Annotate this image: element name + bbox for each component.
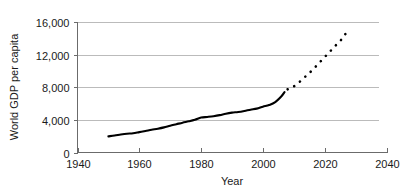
historical-data-line	[108, 92, 284, 136]
chart-container: 194019601980200020202040 04,0008,00012,0…	[0, 0, 406, 195]
y-tick-label: 0	[63, 148, 69, 160]
x-tick-label: 1980	[189, 158, 213, 170]
gridlines	[78, 23, 379, 121]
x-tick-label: 1960	[127, 158, 151, 170]
x-tick-label: 2000	[251, 158, 275, 170]
x-axis-ticks: 194019601980200020202040	[66, 148, 399, 170]
x-tick-label: 2020	[313, 158, 337, 170]
y-axis-title: World GDP per capita	[8, 33, 20, 140]
y-tick-label: 12,000	[36, 50, 70, 62]
projection-data-line	[288, 32, 347, 89]
x-tick-label: 2040	[375, 158, 399, 170]
y-tick-label: 16,000	[36, 17, 70, 29]
gdp-per-capita-line-chart: 194019601980200020202040 04,0008,00012,0…	[0, 0, 406, 195]
y-tick-label: 4,000	[42, 115, 70, 127]
y-axis-ticks: 04,0008,00012,00016,000	[36, 17, 78, 160]
x-tick-label: 1940	[66, 158, 90, 170]
x-axis-title: Year	[221, 175, 244, 187]
y-tick-label: 8,000	[42, 82, 70, 94]
